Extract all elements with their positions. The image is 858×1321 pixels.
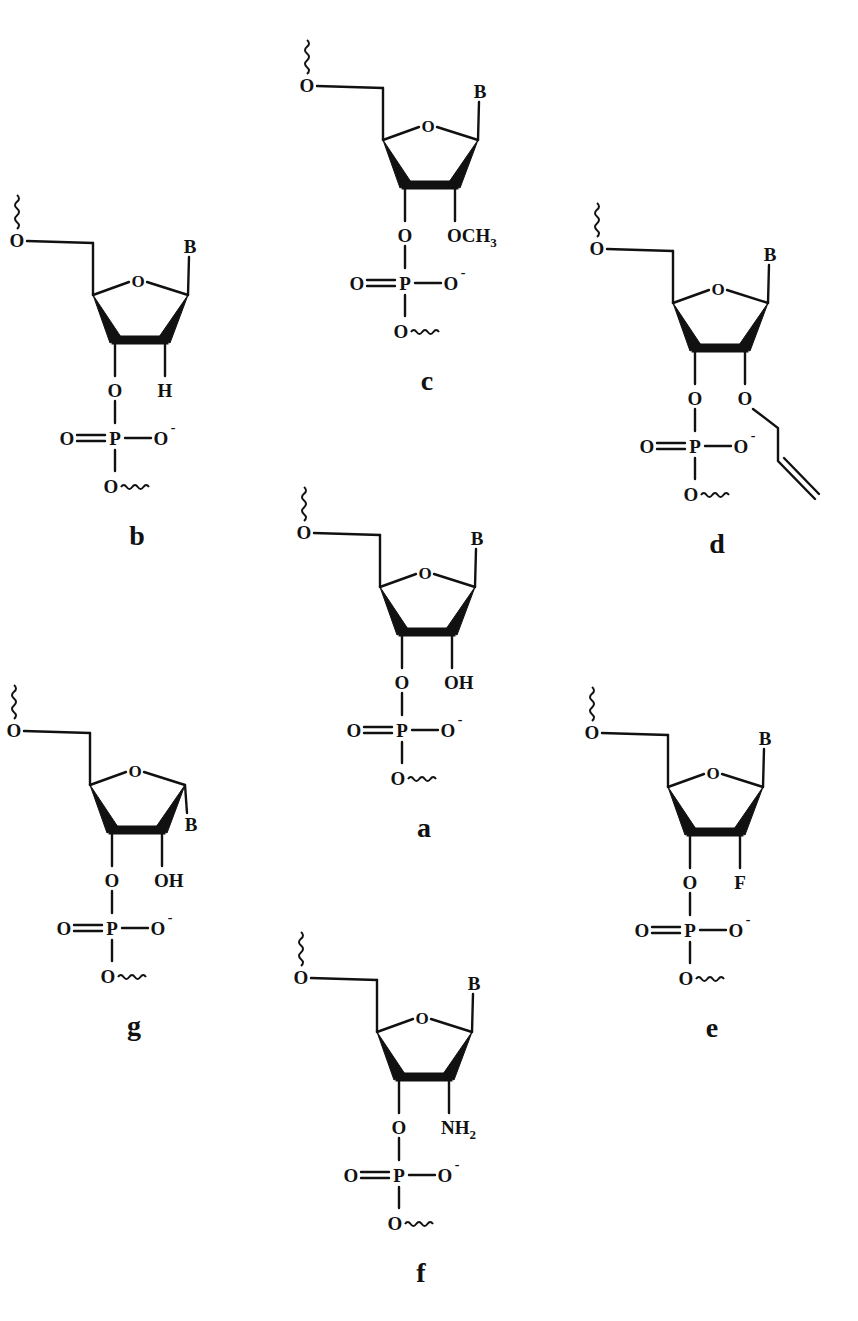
substituent-e: F — [734, 872, 746, 893]
three-prime-oxygen: O — [392, 1117, 407, 1138]
phosphate-double-bond-oxygen: O — [344, 1165, 359, 1186]
structure-e: OOBOPOO-OFe — [585, 687, 772, 1043]
phosphorus: P — [689, 436, 701, 457]
wavy-bond-icon — [121, 485, 149, 489]
wavy-bond-icon — [405, 1222, 433, 1226]
five-prime-oxygen: O — [590, 238, 605, 259]
bridging-oxygen: O — [679, 968, 694, 989]
structure-c: OOBOPOO-OOCH3c — [300, 40, 498, 396]
phosphate-double-bond-oxygen: O — [57, 918, 72, 939]
base-label: B — [184, 236, 197, 257]
bridging-oxygen: O — [391, 768, 406, 789]
structure-a: OOBOPOO-OOHa — [297, 487, 484, 843]
substituent-f: NH2 — [441, 1117, 476, 1142]
negative-charge: - — [461, 265, 466, 280]
phosphate-double-bond-oxygen: O — [60, 428, 75, 449]
phosphate-double-bond-oxygen: O — [635, 920, 650, 941]
wavy-bond-icon — [302, 487, 306, 521]
wavy-bond-icon — [15, 195, 19, 229]
base-label: B — [474, 81, 487, 102]
three-prime-oxygen: O — [398, 225, 413, 246]
negative-charge: - — [458, 712, 463, 727]
bold-bond-icon — [396, 1073, 452, 1081]
base-label: B — [764, 244, 777, 265]
wavy-bond-icon — [12, 685, 16, 719]
five-prime-oxygen: O — [585, 722, 600, 743]
phosphorus: P — [109, 428, 121, 449]
phosphorus: P — [106, 918, 118, 939]
negative-charge: - — [455, 1157, 460, 1172]
substituent-c: OCH3 — [447, 225, 497, 250]
structure-f: OOBOPOO-ONH2f — [294, 932, 481, 1288]
bridging-oxygen: O — [104, 476, 119, 497]
compound-label-c: c — [421, 365, 433, 396]
phosphate-anionic-oxygen: O — [444, 273, 459, 294]
phosphorus: P — [396, 720, 408, 741]
phosphorus: P — [684, 920, 696, 941]
base-label: B — [759, 728, 772, 749]
bold-bond-icon — [692, 344, 748, 352]
phosphorus: P — [393, 1165, 405, 1186]
wavy-bond-icon — [595, 203, 599, 237]
compound-label-g: g — [127, 1010, 141, 1041]
substituent-a: OH — [444, 672, 474, 693]
phosphate-anionic-oxygen: O — [151, 918, 166, 939]
phosphate-anionic-oxygen: O — [734, 436, 749, 457]
ring-oxygen: O — [415, 1009, 428, 1028]
negative-charge: - — [171, 420, 176, 435]
five-prime-oxygen: O — [300, 75, 315, 96]
structure-d: OOBOPOO-OOd — [590, 203, 819, 559]
bold-bond-icon — [399, 628, 455, 636]
bold-bond-icon — [112, 336, 168, 344]
five-prime-oxygen: O — [10, 230, 25, 251]
three-prime-oxygen: O — [688, 388, 703, 409]
three-prime-oxygen: O — [395, 672, 410, 693]
bold-bond-icon — [109, 826, 165, 834]
negative-charge: - — [168, 910, 173, 925]
ring-oxygen: O — [418, 564, 431, 583]
bridging-oxygen: O — [101, 966, 116, 987]
five-prime-oxygen: O — [297, 522, 312, 543]
base-label: B — [471, 528, 484, 549]
wavy-bond-icon — [590, 687, 594, 721]
phosphate-anionic-oxygen: O — [438, 1165, 453, 1186]
five-prime-oxygen: O — [294, 967, 309, 988]
phosphate-double-bond-oxygen: O — [350, 273, 365, 294]
base-label: B — [468, 973, 481, 994]
structure-g: OOBOPOO-OOHg — [7, 685, 198, 1041]
ring-oxygen: O — [421, 117, 434, 136]
ring-oxygen: O — [711, 280, 724, 299]
ring-oxygen: O — [128, 762, 141, 781]
wavy-bond-icon — [701, 493, 729, 497]
bridging-oxygen: O — [388, 1213, 403, 1234]
phosphate-anionic-oxygen: O — [441, 720, 456, 741]
negative-charge: - — [746, 912, 751, 927]
compound-label-b: b — [129, 520, 145, 551]
ring-oxygen: O — [131, 272, 144, 291]
substituent-b: H — [158, 380, 173, 401]
compound-label-d: d — [709, 528, 725, 559]
wavy-bond-icon — [305, 40, 309, 74]
bold-bond-icon — [402, 181, 458, 189]
three-prime-oxygen: O — [108, 380, 123, 401]
bridging-oxygen: O — [394, 321, 409, 342]
allyl-chain — [753, 409, 815, 499]
substituent-d: O — [738, 388, 753, 409]
wavy-bond-icon — [299, 932, 303, 966]
three-prime-oxygen: O — [683, 872, 698, 893]
wavy-bond-icon — [696, 977, 724, 981]
compound-label-e: e — [706, 1012, 718, 1043]
base-label: B — [185, 814, 198, 835]
phosphate-double-bond-oxygen: O — [347, 720, 362, 741]
bold-bond-icon — [687, 828, 743, 836]
five-prime-oxygen: O — [7, 720, 22, 741]
compound-label-a: a — [417, 812, 431, 843]
phosphorus: P — [399, 273, 411, 294]
three-prime-oxygen: O — [105, 870, 120, 891]
wavy-bond-icon — [118, 975, 146, 979]
phosphate-anionic-oxygen: O — [729, 920, 744, 941]
negative-charge: - — [751, 428, 756, 443]
compound-label-f: f — [416, 1257, 426, 1288]
wavy-bond-icon — [408, 777, 436, 781]
phosphate-anionic-oxygen: O — [154, 428, 169, 449]
